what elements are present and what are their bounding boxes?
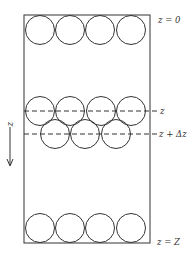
particle-circle (26, 214, 55, 243)
particle-circle (86, 16, 115, 45)
particle-circle (26, 16, 55, 45)
label-z-zero: z = 0 (157, 15, 181, 25)
arrow-down-icon (7, 127, 13, 166)
particle-group (26, 16, 146, 243)
column-outline (24, 15, 150, 243)
label-z-end: z = Z (156, 237, 181, 247)
particle-circle (56, 214, 85, 243)
axis-indicator: z (6, 121, 16, 166)
particle-circle (117, 16, 146, 45)
slice-lines (24, 111, 157, 134)
packed-column-diagram: z = 0 z z + Δz z = Z z (0, 0, 196, 253)
label-slice-bottom: z + Δz (158, 129, 187, 139)
bottom-row (26, 214, 146, 243)
particle-circle (56, 16, 85, 45)
particle-circle (117, 214, 146, 243)
label-slice-top: z (159, 106, 165, 116)
axis-label: z (6, 121, 16, 127)
top-row (26, 16, 146, 45)
particle-circle (86, 214, 115, 243)
